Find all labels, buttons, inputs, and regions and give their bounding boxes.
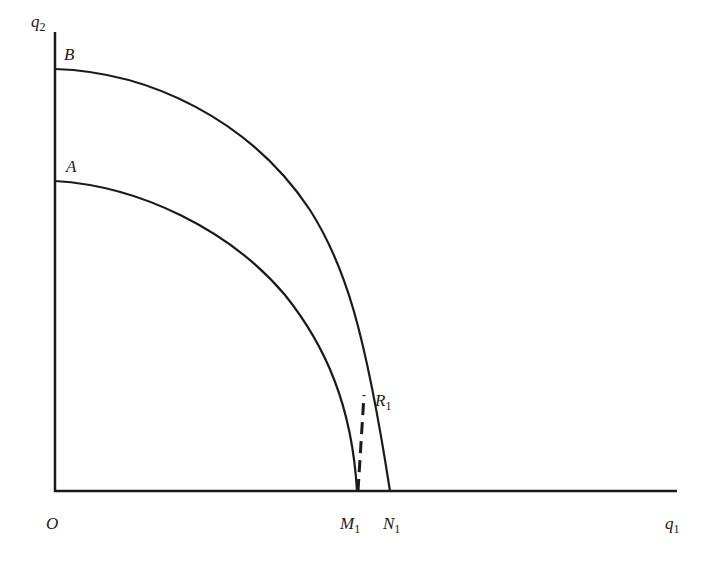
curve-b [55, 69, 390, 491]
point-r1-label: R1 [374, 391, 391, 413]
origin-label: O [46, 514, 58, 533]
curve-b-label: B [64, 45, 75, 64]
curve-a-label: A [65, 157, 77, 176]
ppf-diagram: q2 B A R1 O M1 N1 q1 [0, 0, 707, 566]
m1-label: M1 [339, 514, 360, 536]
x-axis-label: q1 [665, 514, 680, 536]
dashed-line-m1-r1 [358, 395, 364, 491]
n1-label: N1 [382, 514, 400, 536]
y-axis-label: q2 [31, 12, 46, 34]
curve-a [55, 181, 357, 491]
